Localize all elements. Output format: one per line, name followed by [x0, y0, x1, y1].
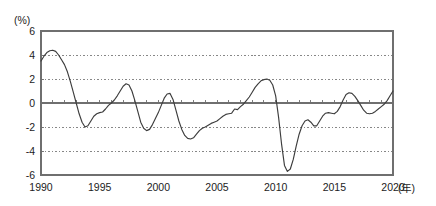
data-line-growth-rate — [41, 50, 393, 171]
y-tick-label-2: 2 — [29, 73, 35, 85]
x-axis-unit-label: (年) — [398, 182, 415, 194]
x-axis-tick-labels: 1990199520002005201020152020 — [29, 181, 405, 193]
x-tick-label-5: 2015 — [323, 181, 347, 193]
y-tick-label-0: 6 — [29, 25, 35, 37]
x-tick-label-4: 2010 — [264, 181, 288, 193]
y-tick-label-5: -4 — [26, 145, 35, 157]
x-tick-label-2: 2000 — [147, 181, 171, 193]
y-axis-tick-labels: 6420-2-4-6 — [26, 25, 36, 181]
data-series-group — [41, 50, 393, 171]
x-tick-label-1: 1995 — [88, 181, 112, 193]
line-chart: 6420-2-4-6 1990199520002005201020152020 … — [0, 0, 436, 206]
x-tick-label-0: 1990 — [29, 181, 53, 193]
plot-frame — [41, 31, 393, 175]
y-axis-unit-label: (%) — [14, 14, 30, 26]
x-tick-label-3: 2005 — [205, 181, 229, 193]
y-tick-label-1: 4 — [29, 49, 35, 61]
y-tick-label-3: 0 — [29, 97, 35, 109]
y-tick-label-4: -2 — [26, 121, 35, 133]
y-tick-label-6: -6 — [26, 169, 35, 181]
chart-container: 6420-2-4-6 1990199520002005201020152020 … — [0, 0, 436, 206]
